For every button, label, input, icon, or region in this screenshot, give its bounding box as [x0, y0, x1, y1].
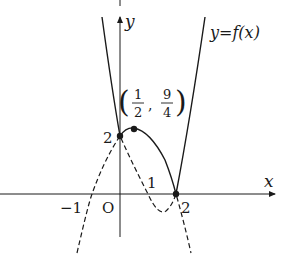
tick-label-x-minus-1: −1 — [60, 199, 82, 217]
curve-label: y=f(x) — [209, 23, 260, 42]
y-axis-label: y — [124, 11, 135, 31]
y-denominator: 4 — [163, 105, 171, 120]
point-y-intercept — [117, 133, 123, 139]
point-root-2 — [173, 191, 179, 197]
tick-label-x-2: 2 — [181, 199, 191, 217]
origin-label: O — [102, 199, 114, 217]
paren-close: ) — [175, 84, 187, 119]
tick-label-x-1: 1 — [147, 174, 157, 192]
x-axis-label: x — [264, 171, 274, 191]
x-denominator: 2 — [134, 105, 142, 120]
comma: , — [148, 97, 152, 113]
function-graph: y x O −1 1 2 2 y=f(x) ( 1 2 , 9 4 ) — [0, 0, 289, 274]
local-max-coordinate-label: ( 1 2 , 9 4 ) — [118, 84, 187, 120]
point-local-max — [131, 126, 137, 132]
y-numerator: 9 — [163, 87, 171, 102]
paren-open: ( — [118, 84, 130, 119]
x-numerator: 1 — [134, 87, 142, 102]
tick-label-y-2: 2 — [103, 129, 113, 147]
